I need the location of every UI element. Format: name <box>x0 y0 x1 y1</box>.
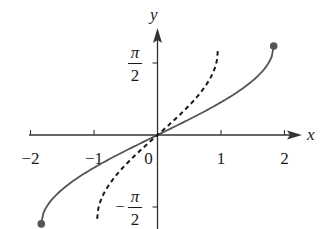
x-tick-label: 1 <box>217 149 226 168</box>
x-tick-label: −2 <box>21 149 39 168</box>
x-tick-label: 0 <box>144 149 153 168</box>
fraction-denominator: 2 <box>131 66 140 85</box>
minus-sign: − <box>115 197 125 216</box>
x-axis-label: x <box>306 125 315 144</box>
tick-labels: xy−2−1012π2π2− <box>21 5 315 229</box>
function-plot: xy−2−1012π2π2− <box>0 0 325 229</box>
endpoint-marker-right <box>270 42 278 50</box>
y-tick-label-fraction: π2 <box>128 43 142 85</box>
x-tick-label: −1 <box>85 149 103 168</box>
x-tick-label: 2 <box>280 149 289 168</box>
endpoint-marker-left <box>37 220 45 228</box>
fraction-numerator: π <box>131 43 140 62</box>
fraction-numerator: π <box>131 187 140 206</box>
y-tick-label-fraction: π2− <box>115 187 142 229</box>
axes <box>29 28 302 229</box>
fraction-denominator: 2 <box>131 210 140 229</box>
y-axis-label: y <box>148 5 158 24</box>
